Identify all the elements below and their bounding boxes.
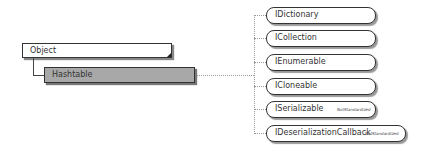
interface-connector: [254, 15, 255, 134]
base-class-label: Object: [30, 46, 56, 55]
interface-icollection: ICollection: [266, 30, 376, 47]
class-hashtable: Hashtable: [44, 67, 195, 83]
inheritance-connector: [33, 58, 34, 75]
interface-iserializable: ISerializable NotStandardized: [266, 101, 376, 118]
interface-ideserializationcallback: IDeserializationCallback NotStandardized: [266, 125, 406, 142]
interface-label: IEnumerable: [275, 57, 326, 66]
interface-label: IDictionary: [275, 10, 318, 19]
interface-connector: [254, 15, 266, 16]
interface-idictionary: IDictionary: [266, 7, 376, 24]
interface-connector: [254, 133, 266, 134]
interface-label: IDeserializationCallback: [275, 128, 371, 137]
not-standardized-note: NotStandardized: [365, 127, 399, 141]
interface-connector: [254, 86, 266, 87]
base-class-object: Object: [22, 43, 172, 58]
interface-ienumerable: IEnumerable: [266, 54, 376, 71]
interface-connector: [254, 38, 266, 39]
inheritance-connector: [33, 75, 44, 76]
not-standardized-note: NotStandardized: [337, 103, 371, 117]
interface-connector: [197, 75, 254, 76]
interface-label: ISerializable: [275, 104, 324, 113]
interface-connector: [254, 109, 266, 110]
interface-label: ICollection: [275, 33, 317, 42]
interface-connector: [254, 62, 266, 63]
interface-label: ICloneable: [275, 81, 317, 90]
class-label: Hashtable: [52, 70, 92, 79]
interface-icloneable: ICloneable: [266, 78, 376, 95]
